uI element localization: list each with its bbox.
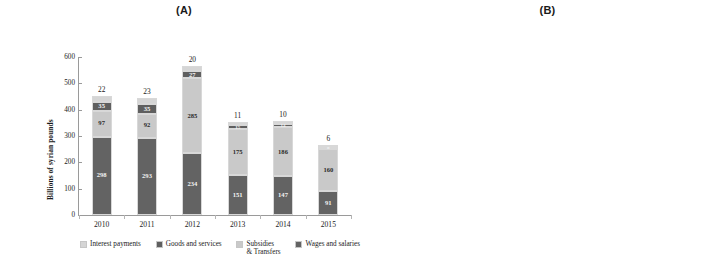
bar-segment[interactable]: 27 [182, 71, 202, 78]
bar-segment[interactable]: 186 [273, 127, 293, 176]
legend-label: Goods and services [166, 240, 222, 248]
bar-segment-value: 15 [235, 125, 240, 130]
x-axis-tick-label: 2014 [275, 220, 290, 229]
bar-segment[interactable]: 298 [92, 137, 112, 215]
bar-segment[interactable] [273, 121, 293, 124]
x-axis-tick [215, 215, 216, 219]
bar-segment-value: 92 [144, 122, 151, 129]
panel-a-plot-area: 0100200300400500600201020112012201320142… [78, 57, 351, 216]
bar-segment[interactable]: 293 [137, 138, 157, 215]
y-axis-tick-label: 300 [64, 132, 79, 140]
stacked-bar[interactable]: 911608 [318, 145, 338, 215]
bar-segment-value: 298 [97, 172, 107, 179]
stacked-bar[interactable]: 2989735 [92, 96, 112, 215]
x-axis-tick [351, 215, 352, 219]
bar-segment-value: 234 [187, 181, 197, 188]
x-axis-tick [124, 215, 125, 219]
x-axis-tick [306, 215, 307, 219]
bar-segment[interactable]: 160 [318, 149, 338, 191]
y-axis-tick-label: 100 [64, 185, 79, 193]
legend-swatch-icon [156, 241, 163, 248]
bar-segment[interactable]: 234 [182, 153, 202, 215]
x-axis-tick-label: 2011 [140, 220, 155, 229]
bar-segment-value: 14 [281, 123, 286, 128]
bar-total-value-label: 22 [98, 85, 105, 94]
x-axis-tick [79, 215, 80, 219]
bar-segment-value: 97 [98, 120, 105, 127]
bar-segment-value: 151 [233, 192, 243, 199]
bar-total-value-label: 20 [189, 55, 196, 64]
bar-segment-value: 35 [144, 106, 151, 113]
panel-a-y-axis-label: Billions of syrian pounds [46, 119, 55, 200]
legend-swatch-icon [80, 241, 87, 248]
y-axis-tick-label: 200 [64, 158, 79, 166]
bar-segment[interactable]: 97 [92, 111, 112, 137]
bar-segment[interactable]: 91 [318, 191, 338, 215]
bar-segment-value: 91 [325, 200, 332, 207]
x-axis-tick [260, 215, 261, 219]
stacked-bar[interactable]: 14718614 [273, 121, 293, 215]
legend-item-wages-and-salaries: Wages and salaries [295, 240, 360, 248]
bar-segment-value: 35 [98, 103, 105, 110]
bar-segment[interactable] [182, 66, 202, 71]
bar-segment-value: 186 [278, 149, 288, 156]
stacked-bar[interactable]: 23428527 [182, 66, 202, 215]
panel-b: (B) Billions of Syrian pounds 0501001502… [368, 0, 727, 277]
bar-segment-value: 175 [233, 149, 243, 156]
bar-segment[interactable]: 151 [228, 175, 248, 215]
bar-segment[interactable]: 35 [137, 104, 157, 113]
bar-total-value-label: 23 [143, 87, 150, 96]
legend-swatch-icon [236, 241, 243, 248]
x-axis-tick-label: 2010 [94, 220, 109, 229]
stacked-bar[interactable]: 2939235 [137, 98, 157, 215]
y-axis-tick-label: 600 [64, 53, 79, 61]
legend-label: Wages and salaries [305, 240, 360, 248]
x-axis-tick [170, 215, 171, 219]
y-axis-tick-label: 0 [71, 211, 79, 219]
bar-segment-value: 160 [323, 167, 333, 174]
stacked-bar[interactable]: 15117515 [228, 122, 248, 215]
panel-a-legend: Interest payments Goods and services Sub… [80, 240, 360, 257]
bar-segment[interactable] [92, 96, 112, 102]
legend-label: Interest payments [90, 240, 141, 248]
legend-item-goods-and-services: Goods and services [156, 240, 222, 248]
panel-a: (A) Billions of syrian pounds 0100200300… [0, 0, 368, 277]
bar-total-value-label: 10 [279, 110, 286, 119]
bar-segment[interactable]: 15 [228, 125, 248, 129]
bar-segment-value: 293 [142, 173, 152, 180]
panel-b-title: (B) [368, 4, 727, 16]
bar-segment[interactable]: 14 [273, 124, 293, 128]
bar-total-value-label: 6 [326, 134, 330, 143]
bar-segment[interactable]: 147 [273, 176, 293, 215]
bar-segment[interactable]: 285 [182, 78, 202, 153]
panel-a-title: (A) [0, 4, 368, 16]
bar-segment-value: 27 [189, 72, 196, 79]
bar-segment[interactable] [137, 98, 157, 104]
bar-segment[interactable]: 175 [228, 129, 248, 175]
y-axis-tick-label: 400 [64, 106, 79, 114]
legend-swatch-icon [295, 241, 302, 248]
legend-item-subsidies-transfers: Subsidies & Transfers [236, 240, 280, 257]
y-axis-tick-label: 500 [64, 79, 79, 87]
bar-total-value-label: 11 [234, 111, 241, 120]
x-axis-tick-label: 2013 [230, 220, 245, 229]
bar-segment-value: 147 [278, 192, 288, 199]
legend-item-interest-payments: Interest payments [80, 240, 141, 248]
bar-segment[interactable] [228, 122, 248, 125]
bar-segment-value: 285 [187, 113, 197, 120]
x-axis-tick-label: 2012 [185, 220, 200, 229]
bar-segment[interactable]: 35 [92, 102, 112, 111]
legend-label: Subsidies & Transfers [246, 240, 280, 257]
bar-segment[interactable]: 92 [137, 114, 157, 138]
figure-root: (A) Billions of syrian pounds 0100200300… [0, 0, 727, 277]
x-axis-tick-label: 2015 [321, 220, 336, 229]
bar-segment[interactable] [318, 145, 338, 147]
bar-segment[interactable]: 8 [318, 147, 338, 149]
